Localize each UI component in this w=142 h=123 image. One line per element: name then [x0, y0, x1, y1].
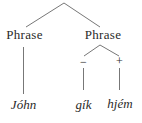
- tree-diagram: Phrase Phrase − + Jóhn gík hjém: [0, 0, 142, 123]
- edge-root-to-right-phrase: [64, 3, 100, 27]
- edge-root-to-left-phrase: [26, 3, 64, 27]
- terminal-word-hjem: hjém: [98, 97, 142, 110]
- terminal-word-john: Jóhn: [0, 98, 47, 111]
- phrase-node-right: Phrase: [81, 28, 125, 41]
- plus-sign-node: +: [111, 55, 128, 67]
- minus-sign-node: −: [75, 56, 92, 68]
- phrase-node-left: Phrase: [1, 28, 48, 41]
